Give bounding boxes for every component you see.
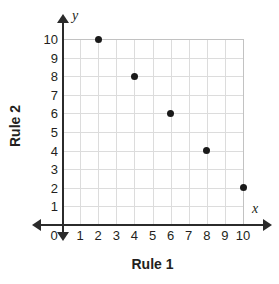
x-axis-tick-labels: 012345678910 xyxy=(0,0,279,284)
data-point xyxy=(95,36,102,43)
data-point xyxy=(131,73,138,80)
x-tick-label: 1 xyxy=(70,229,90,242)
scatter-plot-figure: 12345678910 012345678910 y x Rule 1 Rule… xyxy=(0,0,279,284)
x-tick-label: 0 xyxy=(44,229,64,242)
x-axis-symbol: x xyxy=(252,201,258,217)
x-tick-label: 2 xyxy=(88,229,108,242)
x-tick-label: 10 xyxy=(233,229,253,242)
y-axis-symbol: y xyxy=(72,8,78,24)
x-tick-label: 7 xyxy=(179,229,199,242)
x-tick-label: 6 xyxy=(161,229,181,242)
x-tick-label: 5 xyxy=(143,229,163,242)
x-tick-label: 9 xyxy=(215,229,235,242)
x-tick-label: 8 xyxy=(197,229,217,242)
x-tick-label: 3 xyxy=(106,229,126,242)
data-point xyxy=(240,184,247,191)
y-axis-title: Rule 2 xyxy=(7,83,23,169)
x-tick-label: 4 xyxy=(124,229,144,242)
x-axis-title: Rule 1 xyxy=(62,256,243,272)
data-point xyxy=(167,110,174,117)
